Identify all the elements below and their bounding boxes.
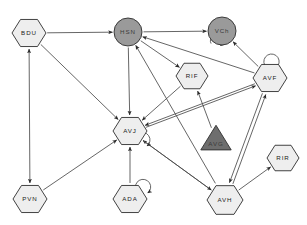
node-bdu[interactable]: BDU bbox=[12, 19, 46, 46]
edge-AVH-to-RIR bbox=[239, 167, 271, 190]
node-shape-hexagon bbox=[113, 117, 147, 144]
edge-PVN-to-AVJ bbox=[43, 140, 116, 190]
edge-BDU-to-HSN bbox=[47, 32, 112, 33]
node-ada[interactable]: ADA bbox=[113, 185, 147, 212]
node-shape-hexagon bbox=[267, 145, 299, 171]
node-shape-circle bbox=[208, 17, 236, 45]
node-shape-triangle bbox=[201, 125, 231, 150]
node-avh[interactable]: AVH bbox=[207, 186, 243, 215]
node-avg[interactable]: AVG bbox=[201, 125, 231, 150]
node-hsn[interactable]: HSN bbox=[114, 18, 142, 46]
node-shape-hexagon bbox=[176, 63, 208, 89]
node-avj[interactable]: AVJ bbox=[113, 117, 147, 144]
edge-AVH-to-HSN bbox=[136, 45, 216, 183]
node-vch[interactable]: VCh bbox=[208, 17, 236, 45]
node-shape-hexagon bbox=[13, 185, 47, 212]
node-shape-hexagon bbox=[207, 186, 243, 215]
diagram-canvas: BDUHSNVChRIFAVFAVJAVGRIRPVNADAAVH bbox=[0, 0, 307, 225]
node-shape-hexagon bbox=[253, 64, 287, 91]
edge-AVG-to-RIF bbox=[198, 91, 212, 128]
edges-layer bbox=[29, 31, 271, 190]
edge-HSN-to-VCh bbox=[143, 31, 206, 32]
edge-AVF-to-AVH bbox=[229, 93, 262, 182]
node-shape-hexagon bbox=[113, 185, 147, 212]
nodes-layer: BDUHSNVChRIFAVFAVJAVGRIRPVNADAAVH bbox=[12, 17, 299, 214]
node-shape-circle bbox=[114, 18, 142, 46]
node-pvn[interactable]: PVN bbox=[13, 185, 47, 212]
edge-BDU-to-AVJ bbox=[41, 44, 118, 119]
edge-AVJ-to-AVH bbox=[143, 140, 211, 190]
edge-RIF-to-AVJ bbox=[142, 86, 180, 120]
node-shape-hexagon bbox=[12, 19, 46, 46]
edge-BDU-to-PVN bbox=[29, 49, 30, 183]
node-avf[interactable]: AVF bbox=[253, 64, 287, 91]
edge-AVH-to-AVF bbox=[233, 95, 266, 184]
edge-AVF-to-VCh bbox=[233, 42, 258, 67]
edge-HSN-to-AVJ bbox=[128, 47, 129, 114]
connectivity-graph: BDUHSNVChRIFAVFAVJAVGRIRPVNADAAVH bbox=[0, 0, 307, 225]
node-rir[interactable]: RIR bbox=[267, 145, 299, 171]
node-rif[interactable]: RIF bbox=[176, 63, 208, 89]
